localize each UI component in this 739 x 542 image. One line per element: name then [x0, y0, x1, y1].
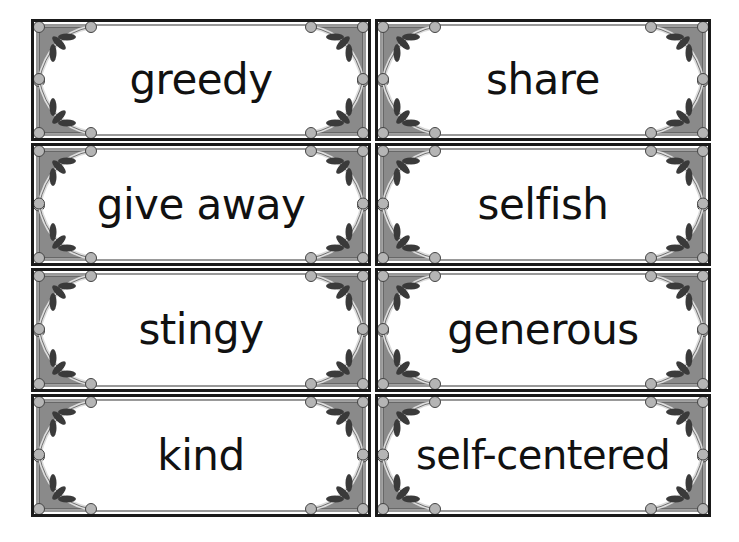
card-word: kind — [34, 430, 368, 479]
word-card-generous: generous — [375, 268, 711, 392]
word-card-give-away: give away — [31, 143, 371, 266]
word-card-kind: kind — [31, 394, 371, 517]
card-word: selfish — [378, 179, 708, 228]
word-card-selfish: selfish — [375, 143, 711, 266]
card-word: give away — [34, 179, 368, 228]
card-word: stingy — [34, 305, 368, 354]
card-word: share — [378, 55, 708, 104]
word-card-share: share — [375, 19, 711, 141]
word-card-self-centered: self-centered — [375, 394, 711, 517]
word-card-stingy: stingy — [31, 268, 371, 392]
card-word: greedy — [34, 55, 368, 104]
word-card-greedy: greedy — [31, 19, 371, 141]
card-word: self-centered — [378, 432, 708, 478]
word-card-grid: greedy share give away selfish stingy ge… — [30, 18, 712, 518]
card-word: generous — [378, 305, 708, 354]
